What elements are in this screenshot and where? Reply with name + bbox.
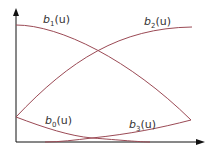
label-b1: b1(u) <box>43 13 70 28</box>
label-b3: b3(u) <box>129 118 156 133</box>
label-b2: b2(u) <box>144 15 171 30</box>
label-b0: b0(u) <box>45 114 72 129</box>
x-axis-arrow-icon <box>196 139 205 145</box>
y-axis-arrow-icon <box>13 8 19 16</box>
curve-b1 <box>16 25 191 120</box>
chart-canvas: b1(u) b2(u) b0(u) b3(u) <box>0 0 211 150</box>
curve-b2 <box>16 27 192 117</box>
bspline-basis-chart: b1(u) b2(u) b0(u) b3(u) <box>0 0 211 150</box>
